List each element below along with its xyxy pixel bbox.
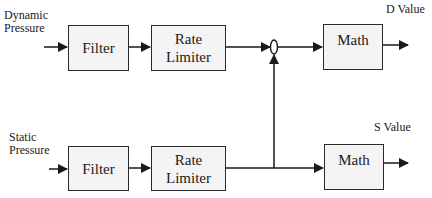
top-filter-label: Filter bbox=[82, 39, 115, 57]
top-filter-block: Filter bbox=[68, 25, 129, 71]
top-rate-label-line1: Rate bbox=[166, 30, 211, 48]
static-label-line2: Pressure bbox=[9, 144, 50, 157]
bottom-rate-label-line1: Rate bbox=[166, 151, 211, 169]
dynamic-label-line2: Pressure bbox=[4, 22, 48, 35]
bottom-math-label: Math bbox=[338, 151, 370, 169]
d-value-label: D Value bbox=[386, 3, 425, 16]
dynamic-pressure-label: Dynamic Pressure bbox=[4, 9, 48, 35]
top-math-block: Math bbox=[323, 24, 383, 70]
bottom-rate-label-line2: Limiter bbox=[166, 169, 211, 187]
bottom-filter-label: Filter bbox=[82, 160, 115, 178]
summing-junction bbox=[271, 40, 278, 54]
static-pressure-label: Static Pressure bbox=[9, 131, 50, 157]
top-math-label: Math bbox=[337, 31, 369, 49]
bottom-math-block: Math bbox=[324, 144, 384, 190]
top-rate-limiter-block: Rate Limiter bbox=[151, 25, 226, 71]
bottom-filter-block: Filter bbox=[68, 146, 129, 191]
s-value-label: S Value bbox=[374, 121, 411, 134]
top-rate-label-line2: Limiter bbox=[166, 48, 211, 66]
bottom-rate-limiter-block: Rate Limiter bbox=[151, 146, 226, 191]
